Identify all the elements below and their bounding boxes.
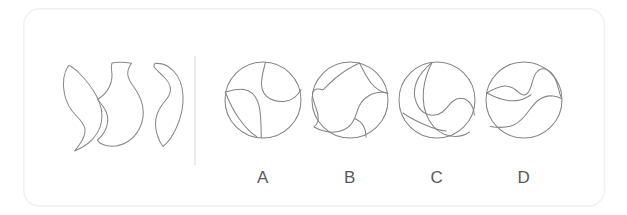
option-c-label: C [431, 168, 444, 187]
option-b-label: B [344, 168, 356, 187]
puzzle-figure: A B C D [0, 0, 627, 215]
puzzle-canvas: A B C D [0, 0, 627, 215]
option-d-label: D [518, 168, 531, 187]
option-a-label: A [257, 168, 269, 187]
